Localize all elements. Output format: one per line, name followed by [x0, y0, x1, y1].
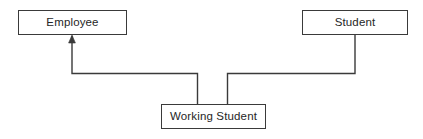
class-name-student: Student [335, 17, 376, 29]
generalization-edge-working-student-to-employee [72, 36, 198, 104]
generalization-arrowhead-icon [69, 35, 76, 43]
class-box-student[interactable]: Student [302, 10, 408, 35]
class-box-employee[interactable]: Employee [18, 10, 127, 35]
class-name-employee: Employee [46, 17, 98, 29]
class-name-working-student: Working Student [170, 111, 257, 123]
generalization-edge-working-student-to-student [228, 35, 356, 104]
class-box-working-student[interactable]: Working Student [161, 104, 266, 129]
uml-class-diagram: Employee Student Working Student [0, 0, 423, 139]
